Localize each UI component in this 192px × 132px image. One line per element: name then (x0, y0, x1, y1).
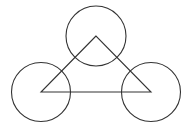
diagram-canvas (0, 0, 192, 132)
triangle (41, 36, 151, 92)
